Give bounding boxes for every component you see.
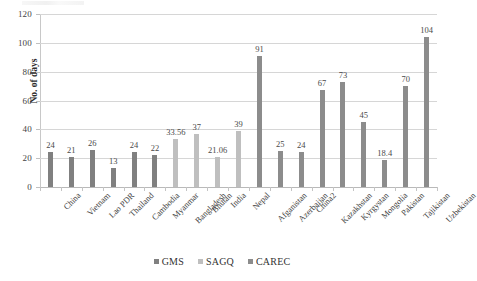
gridline (40, 43, 437, 44)
bar (111, 168, 116, 187)
y-axis-tick-label: 40 (2, 125, 32, 134)
bar (403, 86, 408, 187)
bar (173, 139, 178, 187)
legend-label: GMS (162, 256, 184, 267)
bar-value-label: 37 (180, 123, 214, 132)
legend-swatch-icon (198, 259, 203, 264)
x-axis-category-label: Nepal (250, 191, 271, 212)
bar-value-label: 26 (75, 139, 109, 148)
y-axis-tick-label: 100 (2, 39, 32, 48)
bar-value-label: 39 (222, 120, 256, 129)
x-axis-tick-mark (333, 187, 334, 191)
bar (48, 152, 53, 187)
x-axis-tick-mark (40, 187, 41, 191)
gridline (40, 72, 437, 73)
x-axis-tick-mark (291, 187, 292, 191)
bar-value-label: 22 (138, 144, 172, 153)
bar-value-label: 24 (284, 141, 318, 150)
bar (194, 134, 199, 187)
x-axis-tick-mark (312, 187, 313, 191)
x-axis-tick-mark (374, 187, 375, 191)
bar (215, 157, 220, 187)
bar (361, 122, 366, 187)
bar (382, 160, 387, 187)
x-axis-tick-mark (270, 187, 271, 191)
bar (257, 56, 262, 187)
x-axis-tick-mark (353, 187, 354, 191)
x-axis-tick-mark (437, 187, 438, 191)
x-axis-tick-mark (165, 187, 166, 191)
bar-value-label: 73 (326, 71, 360, 80)
bar-value-label: 91 (242, 45, 276, 54)
legend-item[interactable]: CAREC (248, 256, 290, 267)
y-axis-title: No. of days (29, 41, 39, 121)
bar (278, 151, 283, 187)
bar (132, 152, 137, 187)
x-axis-tick-mark (144, 187, 145, 191)
bar-value-label: 18.4 (368, 149, 402, 158)
bar-value-label: 45 (347, 111, 381, 120)
legend-swatch-icon (154, 259, 159, 264)
y-axis-tick-label: 120 (2, 10, 32, 19)
bar-value-label: 104 (410, 26, 444, 35)
x-axis-tick-mark (249, 187, 250, 191)
x-axis-tick-mark (395, 187, 396, 191)
x-axis-tick-mark (186, 187, 187, 191)
bar-value-label: 67 (305, 79, 339, 88)
bar (152, 155, 157, 187)
x-axis-tick-mark (124, 187, 125, 191)
legend-swatch-icon (248, 259, 253, 264)
bar-value-label: 13 (96, 157, 130, 166)
bar (69, 157, 74, 187)
bar (320, 90, 325, 187)
bar (299, 152, 304, 187)
gridline (40, 101, 437, 102)
y-axis-tick-label: 0 (2, 183, 32, 192)
gridline (40, 14, 437, 15)
bar (340, 82, 345, 187)
legend-item[interactable]: GMS (154, 256, 184, 267)
legend-label: SAGQ (206, 256, 234, 267)
bar-value-label: 70 (389, 75, 423, 84)
legend-item[interactable]: SAGQ (198, 256, 234, 267)
bar (424, 37, 429, 187)
bar (236, 131, 241, 187)
x-axis-category-label: China (62, 191, 83, 212)
chart-legend: GMSSAGQCAREC (0, 256, 444, 267)
x-axis-tick-mark (61, 187, 62, 191)
y-axis-tick-label: 80 (2, 68, 32, 77)
x-axis-line (40, 187, 437, 188)
x-axis-tick-mark (416, 187, 417, 191)
plot-area: 24212613242233.563721.063991252467734518… (40, 14, 437, 187)
y-axis-tick-label: 60 (2, 97, 32, 106)
bar (90, 150, 95, 187)
bar-value-label: 21.06 (201, 146, 235, 155)
y-axis-tick-label: 20 (2, 154, 32, 163)
legend-label: CAREC (256, 256, 290, 267)
x-axis-tick-mark (82, 187, 83, 191)
x-axis-tick-mark (207, 187, 208, 191)
